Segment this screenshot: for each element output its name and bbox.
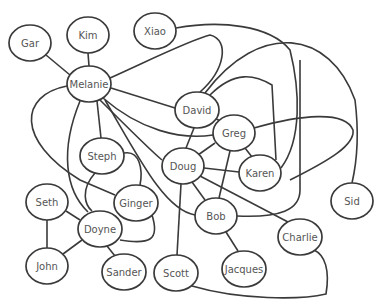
- node-label: Scott: [163, 268, 189, 279]
- graph-svg: GarKimXiaoMelanieDavidGregStephDougKaren…: [0, 0, 388, 307]
- node-bob: Bob: [195, 198, 237, 234]
- network-diagram: GarKimXiaoMelanieDavidGregStephDougKaren…: [0, 0, 388, 307]
- node-john: John: [26, 248, 68, 284]
- node-david: David: [175, 92, 219, 128]
- node-gar: Gar: [9, 25, 51, 61]
- edge-kim-melanie: [88, 53, 89, 66]
- node-label: Charlie: [282, 232, 317, 243]
- nodes-layer: GarKimXiaoMelanieDavidGregStephDougKaren…: [9, 13, 373, 291]
- node-steph: Steph: [80, 138, 124, 174]
- edge-seth-doyne: [66, 211, 80, 220]
- node-seth: Seth: [26, 184, 68, 220]
- node-doug: Doug: [162, 148, 204, 184]
- edge-john-doyne: [63, 240, 82, 254]
- edge-melanie-david: [111, 88, 175, 108]
- node-label: Doug: [170, 161, 197, 172]
- node-greg: Greg: [213, 115, 255, 151]
- node-label: Sander: [106, 267, 142, 278]
- edge-bob-jacques: [226, 232, 238, 251]
- edge-greg-doug: [198, 143, 215, 155]
- node-label: Sid: [344, 196, 359, 207]
- edge-greg-karen: [245, 148, 252, 157]
- node-label: Melanie: [70, 79, 109, 90]
- edge-melanie-steph: [97, 101, 101, 138]
- node-scott: Scott: [154, 255, 198, 291]
- node-label: Bob: [206, 211, 225, 222]
- node-xiao: Xiao: [134, 13, 176, 49]
- edge-gar-melanie: [46, 55, 70, 75]
- edge-doyne-sander: [107, 246, 115, 256]
- node-label: Seth: [36, 197, 59, 208]
- node-label: Karen: [246, 168, 275, 179]
- edge-doug-bob: [192, 182, 205, 200]
- node-label: Greg: [222, 128, 246, 139]
- node-karen: Karen: [239, 155, 281, 191]
- node-label: Doyne: [84, 224, 116, 235]
- node-label: David: [183, 105, 212, 116]
- node-doyne: Doyne: [78, 211, 122, 247]
- node-label: Kim: [78, 30, 97, 41]
- node-label: Gar: [21, 38, 40, 49]
- edge-david-doug: [186, 128, 194, 148]
- node-jacques: Jacques: [222, 251, 266, 287]
- node-kim: Kim: [67, 17, 109, 53]
- edge-doug-karen: [204, 168, 239, 172]
- node-ginger: Ginger: [114, 185, 158, 221]
- node-sander: Sander: [102, 254, 146, 290]
- node-charlie: Charlie: [278, 219, 322, 255]
- edge-doug-scott: [177, 184, 181, 255]
- node-sid: Sid: [331, 183, 373, 219]
- edge-steph-doyne: [85, 173, 95, 211]
- node-melanie: Melanie: [67, 66, 111, 102]
- node-label: Steph: [87, 151, 116, 162]
- node-label: Jacques: [224, 264, 264, 275]
- node-label: Xiao: [144, 26, 166, 37]
- node-label: Ginger: [119, 198, 153, 209]
- node-label: John: [35, 261, 58, 272]
